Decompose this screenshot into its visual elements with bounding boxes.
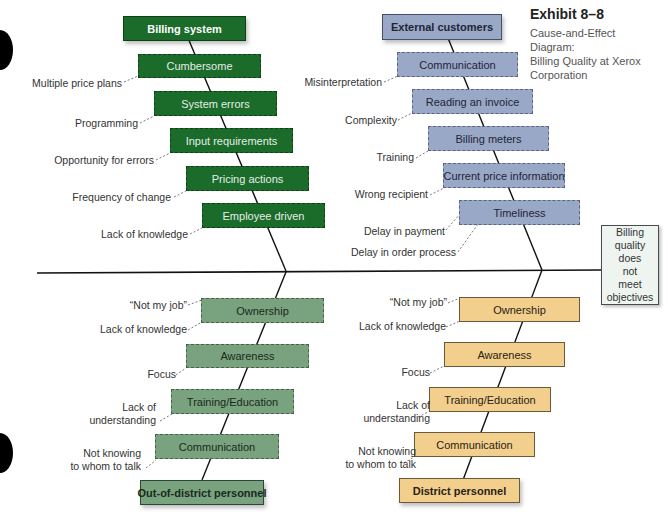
subcause-box: Employee driven: [202, 203, 325, 228]
subcause-box: Communication: [155, 434, 279, 459]
cause-label: Lack of: [396, 399, 430, 412]
cause-label: Wrong recipient: [355, 188, 428, 201]
effect-line: meet: [607, 278, 654, 291]
effect-line: not: [607, 265, 654, 278]
subcause-box: Ownership: [201, 298, 324, 323]
subcause-box: Billing meters: [428, 126, 549, 151]
effect-line: objectives: [607, 291, 654, 304]
cause-label: Lack of: [122, 401, 156, 414]
cause-label: “Not my job”: [130, 299, 187, 312]
cause-label: Not knowing: [358, 445, 416, 458]
cause-label: Complexity: [345, 114, 397, 127]
cause-label: understanding: [89, 414, 156, 427]
subcause-box: Communication: [397, 52, 518, 77]
exhibit-number: Exhibit 8–8: [530, 6, 604, 22]
caption-line: Cause-and-Effect Diagram:: [530, 26, 660, 54]
cause-label: Frequency of change: [72, 191, 171, 204]
effect-line: quality: [607, 239, 654, 252]
cause-label: Training: [376, 151, 414, 164]
caption-line: Billing Quality at Xerox: [530, 54, 660, 68]
cause-label: Not knowing: [83, 447, 141, 460]
subcause-box: Ownership: [459, 297, 580, 322]
subcause-box: Current price information: [443, 163, 565, 188]
cause-label: to whom to talk: [70, 460, 141, 473]
cause-label: Opportunity for errors: [54, 154, 154, 167]
subcause-box: Timeliness: [459, 200, 580, 225]
subcause-box: Cumbersome: [138, 54, 261, 78]
cause-label: “Not my job”: [390, 296, 447, 309]
cause-label: Lack of knowledge: [359, 320, 446, 333]
effect-line: Billing: [607, 226, 654, 239]
cause-label: Delay in payment: [364, 225, 445, 238]
cause-label: Misinterpretation: [304, 76, 382, 89]
category-head-billing-system: Billing system: [123, 16, 246, 41]
cause-label: understanding: [363, 412, 430, 425]
subcause-box: Pricing actions: [186, 166, 309, 191]
cause-label: Focus: [401, 366, 430, 379]
subcause-box: Communication: [414, 432, 535, 457]
cause-label: Delay in order process: [351, 246, 456, 259]
subcause-box: System errors: [154, 91, 277, 116]
cause-label: Lack of knowledge: [101, 228, 188, 241]
subcause-box: Training/Education: [171, 389, 294, 414]
category-head-external-customers: External customers: [382, 14, 502, 40]
subcause-box: Reading an invoice: [412, 89, 533, 114]
category-head-district: District personnel: [399, 478, 520, 503]
effect-box: Billing quality does not meet objectives: [601, 225, 659, 305]
effect-line: does: [607, 252, 654, 265]
category-head-out-of-district: Out-of-district personnel: [140, 480, 264, 505]
cause-label: to whom to talk: [345, 458, 416, 471]
caption-line: Corporation: [530, 68, 660, 82]
cause-label: Multiple price plans: [32, 77, 122, 90]
subcause-box: Awareness: [186, 344, 309, 368]
subcause-box: Awareness: [444, 342, 565, 367]
exhibit-caption: Cause-and-Effect Diagram: Billing Qualit…: [530, 26, 660, 82]
cause-label: Focus: [147, 368, 176, 381]
cause-label: Programming: [75, 117, 138, 130]
cause-label: Lack of knowledge: [100, 323, 187, 336]
subcause-box: Training/Education: [429, 387, 551, 412]
subcause-box: Input requirements: [170, 128, 293, 153]
